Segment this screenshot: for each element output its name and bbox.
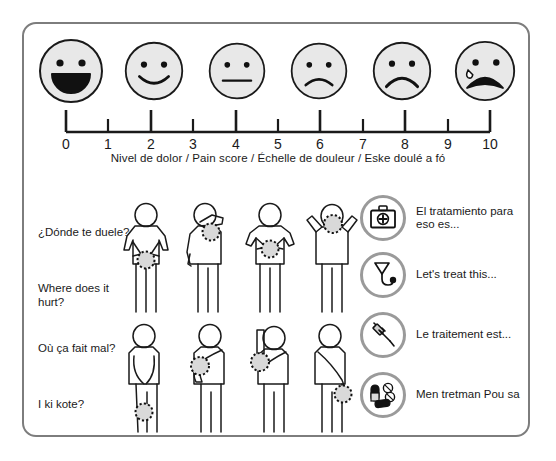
pills-icon <box>360 372 406 418</box>
figure-knee-pain[interactable] <box>116 322 176 434</box>
tick-label-3: 3 <box>189 136 197 152</box>
pain-chart-card: 0 1 2 3 4 5 6 7 8 9 10 Nivel de dolor / … <box>22 22 530 437</box>
tick-label-5: 5 <box>274 136 282 152</box>
treatment-column: El tratamiento para eso es... Let's trea… <box>360 190 532 430</box>
tick-label-0: 0 <box>62 136 70 152</box>
face-score-0[interactable] <box>34 33 108 109</box>
pain-spot <box>335 386 352 403</box>
treatment-spanish[interactable]: El tratamiento para eso es... <box>360 190 532 246</box>
figure-head-pain[interactable] <box>302 202 362 314</box>
figure-armpit-pain[interactable] <box>240 322 300 434</box>
tick-label-9: 9 <box>444 136 452 152</box>
face-score-6[interactable] <box>282 33 356 109</box>
tick-label-1: 1 <box>104 136 112 152</box>
face-score-10[interactable] <box>448 33 522 109</box>
pain-scale-section: 0 1 2 3 4 5 6 7 8 9 10 Nivel de dolor / … <box>24 24 532 174</box>
pain-scale-caption: Nivel de dolor / Pain score / Échelle de… <box>24 152 532 164</box>
face-score-8[interactable] <box>365 33 439 109</box>
figure-pelvis-pain[interactable] <box>116 202 176 314</box>
treatment-spanish-text: El tratamiento para eso es... <box>416 205 532 232</box>
body-figures-grid <box>116 202 362 434</box>
pain-spot <box>262 241 279 258</box>
tick-label-6: 6 <box>316 136 324 152</box>
pain-spot <box>191 357 209 375</box>
syringe-icon <box>360 312 406 358</box>
pain-spot <box>324 215 342 233</box>
figure-chest-pain[interactable] <box>178 322 238 434</box>
tick-label-2: 2 <box>147 136 155 152</box>
pain-spot <box>251 353 269 371</box>
tick-label-7: 7 <box>359 136 367 152</box>
treatment-creole[interactable]: Men tretman Pou sa <box>360 367 532 423</box>
body-location-section: ¿Dónde te duele? Where does it hurt? Où … <box>24 176 532 436</box>
treatment-french-text: Le traitement est... <box>416 328 511 342</box>
stethoscope-icon <box>360 252 406 298</box>
pain-spot <box>136 404 153 421</box>
faces-row <box>32 32 524 110</box>
figure-hand-pain[interactable] <box>302 322 362 434</box>
pain-scale-ruler[interactable]: 0 1 2 3 4 5 6 7 8 9 10 <box>32 110 524 152</box>
tick-label-4: 4 <box>232 136 240 152</box>
face-score-4[interactable] <box>200 33 274 109</box>
treatment-english[interactable]: Let's treat this... <box>360 247 532 303</box>
face-score-2[interactable] <box>117 33 191 109</box>
tick-label-8: 8 <box>401 136 409 152</box>
pain-spot <box>138 252 155 269</box>
treatment-french[interactable]: Le traitement est... <box>360 307 532 363</box>
tick-label-10: 10 <box>482 136 498 152</box>
pain-spot <box>203 224 220 241</box>
first-aid-kit-icon <box>360 195 406 241</box>
figure-shoulder-pain[interactable] <box>178 202 238 314</box>
treatment-creole-text: Men tretman Pou sa <box>416 388 520 402</box>
treatment-english-text: Let's treat this... <box>416 268 497 282</box>
figure-stomach-pain[interactable] <box>240 202 300 314</box>
